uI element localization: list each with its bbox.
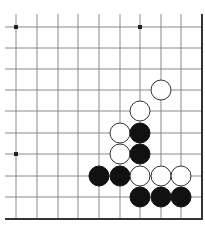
- black-stone[interactable]: [130, 123, 150, 143]
- black-stone[interactable]: [171, 187, 191, 207]
- black-stone[interactable]: [110, 166, 130, 186]
- star-point-icon: [14, 152, 18, 156]
- black-stone[interactable]: [151, 187, 171, 207]
- black-stone[interactable]: [89, 166, 109, 186]
- white-stone[interactable]: [151, 166, 171, 186]
- white-stone[interactable]: [171, 166, 191, 186]
- star-point-icon: [138, 25, 142, 29]
- white-stone[interactable]: [130, 166, 150, 186]
- white-stone[interactable]: [110, 144, 130, 164]
- black-stone[interactable]: [130, 187, 150, 207]
- white-stone[interactable]: [151, 80, 171, 100]
- white-stone[interactable]: [110, 123, 130, 143]
- board-grid: [5, 14, 203, 220]
- go-board[interactable]: [0, 0, 205, 228]
- black-stone[interactable]: [130, 144, 150, 164]
- white-stone[interactable]: [130, 101, 150, 121]
- star-point-icon: [14, 25, 18, 29]
